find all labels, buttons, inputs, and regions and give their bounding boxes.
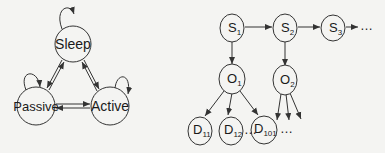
edge-o1-d12: [228, 93, 232, 115]
label-active: Active: [91, 98, 129, 114]
edge-o1-d101: [240, 91, 258, 115]
o2-ellipsis: …: [280, 121, 293, 136]
edge-sleep-passive: [47, 60, 62, 88]
label-sleep: Sleep: [55, 36, 91, 52]
edge-o2-out-3: [290, 93, 301, 119]
edge-o2-out-2: [286, 94, 289, 120]
state-chain-ellipsis: …: [360, 18, 373, 33]
edge-sleep-active: [84, 60, 99, 89]
edge-o1-d11: [205, 91, 224, 116]
edge-o2-out-1: [277, 94, 281, 120]
edge-passive-sleep: [49, 62, 64, 90]
edge-active-sleep: [82, 62, 97, 91]
label-passive: Passive: [13, 99, 59, 114]
diagram-canvas: Sleep Passive Active S1 S2 S3 … O1 O2 D1…: [0, 0, 385, 153]
